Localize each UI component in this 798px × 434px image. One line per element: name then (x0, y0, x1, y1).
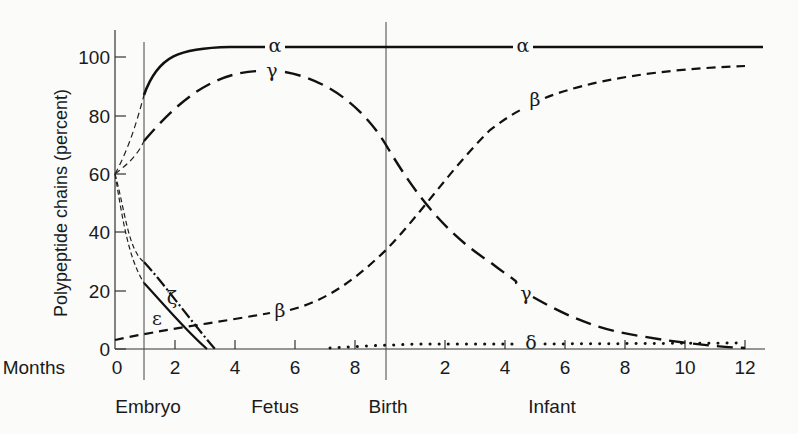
delta-label: δ (525, 331, 536, 353)
x-tick-2: 2 (170, 357, 181, 378)
phase-fetus: Fetus (251, 396, 299, 417)
x-tick-post-4: 4 (500, 357, 511, 378)
epsilon-label: ε (152, 307, 162, 329)
x-tick-post-6: 6 (560, 357, 571, 378)
x-axis-title: Months (3, 357, 65, 378)
zeta-label: ζ (167, 286, 177, 308)
x-tick-labels: Months 0 2 4 6 8 2 4 6 8 10 12 (3, 357, 756, 378)
phase-infant: Infant (528, 396, 576, 417)
beta-curve (115, 66, 745, 340)
alpha-curve-extrapolated (115, 95, 144, 174)
x-ticks (175, 340, 745, 349)
y-tick-100: 100 (78, 47, 110, 68)
y-tick-40: 40 (89, 222, 110, 243)
phase-embryo: Embryo (115, 396, 180, 417)
x-tick-4: 4 (230, 357, 241, 378)
x-tick-post-8: 8 (620, 357, 631, 378)
x-tick-8: 8 (350, 357, 361, 378)
gamma-curve-extrapolated (115, 141, 144, 174)
delta-curve (330, 343, 745, 348)
x-tick-post-10: 10 (674, 357, 695, 378)
y-tick-labels: 0 20 40 60 80 100 (78, 47, 110, 360)
alpha-label-2: α (517, 34, 530, 56)
phase-birth: Birth (368, 396, 407, 417)
zeta-curve (144, 262, 215, 349)
x-tick-0: 0 (112, 357, 123, 378)
alpha-label-1: α (269, 34, 282, 56)
y-axis-title: Polypeptide chains (percent) (51, 89, 71, 317)
gamma-curve (144, 71, 745, 348)
beta-label-2: β (530, 88, 541, 110)
hemoglobin-chain-chart: 0 20 40 60 80 100 Polypeptide chains (pe… (0, 0, 798, 434)
y-tick-20: 20 (89, 281, 110, 302)
beta-label-1: β (275, 299, 286, 321)
gamma-label-2: γ (520, 282, 531, 304)
y-tick-60: 60 (89, 164, 110, 185)
y-tick-80: 80 (89, 106, 110, 127)
x-tick-post-2: 2 (440, 357, 451, 378)
x-tick-6: 6 (290, 357, 301, 378)
gamma-label-1: γ (266, 59, 277, 81)
x-tick-post-12: 12 (734, 357, 755, 378)
y-tick-0: 0 (99, 339, 110, 360)
y-ticks (115, 57, 126, 349)
